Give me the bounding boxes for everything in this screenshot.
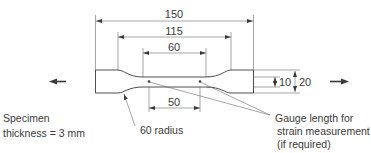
tensile-specimen-diagram: 150 115 60 50 10 20 Specim [0,0,371,153]
dimension-shoulder-length: 115 [118,25,231,37]
thickness-label: thickness = 3 mm [3,127,85,139]
gauge-label-line2: strain measurement [277,125,370,137]
dimension-neck-width: 10 [275,76,291,88]
dim-label-60: 60 [168,41,180,53]
dimension-parallel-length: 60 [143,41,206,53]
left-arrow-icon [49,79,66,85]
gauge-label-line1: Gauge length for [275,112,354,124]
radius-leader [124,94,135,126]
dim-label-10: 10 [279,76,291,88]
gauge-label-line3: (if required) [277,138,331,150]
dim-label-50: 50 [168,96,180,108]
right-arrow-icon [330,79,349,85]
dimension-grip-width: 20 [295,71,311,92]
dimension-overall-length: 150 [96,8,253,21]
extension-lines [96,15,301,112]
dim-label-115: 115 [165,25,183,37]
radius-label: 60 radius [140,124,183,136]
specimen-label: Specimen [3,112,50,124]
dim-label-20: 20 [299,76,311,88]
specimen-outline [96,70,254,93]
dim-label-150: 150 [165,8,183,20]
dimension-gauge-length: 50 [149,96,200,108]
